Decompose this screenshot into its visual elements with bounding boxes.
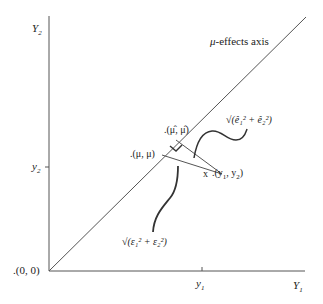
residual-brace (194, 129, 247, 158)
mu-effects-axis-line (49, 17, 306, 271)
diagram-canvas (0, 0, 323, 304)
y2-axis-label: Y2 (32, 22, 42, 37)
y-point-marker: x (203, 168, 208, 179)
mu-effects-axis-label: μ-effects axis (210, 35, 269, 47)
error-norm-label: √(ε₁² + ε₂²) (122, 236, 167, 247)
y1-axis-label: Y1 (293, 279, 303, 294)
origin-label: .(0, 0) (13, 264, 40, 276)
residual-norm-label: √(ê₁² + ê₂²) (226, 114, 272, 125)
mu-hat-point-label: .(μ̂, μ̂) (164, 124, 189, 135)
error-brace (153, 166, 178, 232)
y-point-label: .(y1, y2) (212, 167, 243, 181)
mu-point-label: .(μ, μ) (130, 148, 155, 159)
y2-tick-label: y2 (32, 160, 40, 175)
y1-tick-label: y1 (196, 277, 204, 292)
